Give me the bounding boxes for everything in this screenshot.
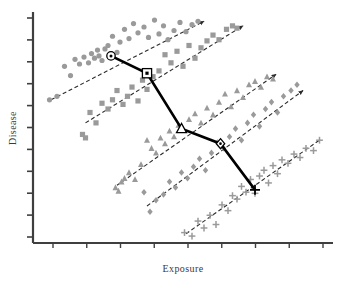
data-point-diamond <box>288 87 293 94</box>
data-point-square <box>198 45 203 50</box>
data-point-diamond <box>257 123 262 130</box>
data-point-diamond <box>233 125 238 132</box>
data-point-plus <box>195 218 202 225</box>
data-point-triangle <box>222 91 228 97</box>
data-point-circle <box>110 34 115 39</box>
data-point-square <box>162 52 167 57</box>
data-point-plus <box>225 207 232 214</box>
data-point-square <box>204 38 209 43</box>
data-point-triangle <box>144 137 150 143</box>
data-point-triangle <box>252 78 258 84</box>
data-point-circle <box>126 36 131 41</box>
data-point-triangle <box>171 134 177 140</box>
data-point-diamond <box>167 178 172 185</box>
data-point-square <box>192 56 197 61</box>
data-point-diamond <box>173 184 178 191</box>
x-axis-title: Exposure <box>163 263 204 274</box>
data-point-diamond <box>141 189 146 196</box>
data-point-diamond <box>251 111 256 118</box>
data-point-square <box>135 98 140 103</box>
data-point-plus <box>279 156 286 163</box>
scatter-plot-figure: Exposure Disease <box>0 0 341 286</box>
data-point-circle <box>131 21 136 26</box>
data-point-diamond <box>245 120 250 127</box>
centroid-marker-circle-outline <box>107 52 115 60</box>
data-point-triangle <box>246 82 252 88</box>
data-point-triangle <box>240 94 246 100</box>
data-point-triangle <box>126 169 132 175</box>
data-point-square <box>83 135 88 140</box>
data-point-square <box>105 106 110 111</box>
data-point-triangle <box>138 161 144 167</box>
data-point-circle <box>141 24 146 29</box>
data-point-circle <box>152 17 157 22</box>
data-point-square <box>174 49 179 54</box>
data-point-triangle <box>192 110 198 116</box>
data-point-plus <box>234 196 241 203</box>
data-point-plus <box>297 154 304 161</box>
data-point-triangle <box>204 105 210 111</box>
data-point-plus <box>261 167 268 174</box>
data-point-square <box>93 120 98 125</box>
data-point-plus <box>213 221 220 228</box>
data-point-circle <box>171 28 176 33</box>
data-point-square <box>99 101 104 106</box>
data-point-triangle <box>162 140 168 146</box>
data-point-square <box>216 37 221 42</box>
data-point-diamond <box>227 133 232 140</box>
data-point-circle <box>99 58 104 63</box>
data-point-plus <box>189 233 196 240</box>
data-point-diamond <box>269 99 274 106</box>
data-point-circle <box>62 64 67 69</box>
data-point-circle <box>165 37 170 42</box>
data-point-diamond <box>147 209 152 216</box>
data-point-triangle <box>270 76 276 82</box>
data-point-circle <box>81 54 86 59</box>
data-point-plus <box>201 225 208 232</box>
data-point-triangle <box>149 145 155 151</box>
data-point-triangle <box>167 128 173 134</box>
data-point-circle <box>117 39 122 44</box>
data-point-circle <box>195 19 200 24</box>
group-trend-line-3 <box>117 74 276 185</box>
data-point-diamond <box>191 163 196 170</box>
data-point-diamond <box>197 155 202 162</box>
data-point-square <box>230 23 235 28</box>
centroid-marker-square-outline <box>142 69 151 78</box>
data-point-triangle <box>158 135 164 141</box>
data-point-triangle <box>186 116 192 122</box>
data-point-diamond <box>185 175 190 182</box>
data-point-diamond <box>294 81 299 88</box>
data-point-square <box>110 97 115 102</box>
data-point-circle <box>189 22 194 27</box>
data-point-square <box>168 60 173 65</box>
data-point-square <box>144 87 149 92</box>
data-point-plus <box>207 212 214 219</box>
data-point-circle <box>92 56 97 61</box>
data-point-square <box>180 64 185 69</box>
data-point-triangle <box>198 120 204 126</box>
data-point-square <box>87 110 92 115</box>
data-point-diamond <box>179 169 184 176</box>
data-point-circle <box>77 61 82 66</box>
data-point-circle <box>146 35 151 40</box>
data-point-circle <box>105 43 110 48</box>
data-point-circle <box>135 30 140 35</box>
data-point-plus <box>229 192 236 199</box>
data-point-square <box>125 94 130 99</box>
data-point-circle <box>86 60 91 65</box>
data-point-plus <box>181 229 188 236</box>
data-point-square <box>210 33 215 38</box>
data-point-triangle <box>122 175 128 181</box>
data-point-square <box>114 88 119 93</box>
data-point-circle <box>96 53 101 58</box>
data-point-circle <box>54 94 59 99</box>
overall-trend-line <box>111 56 255 190</box>
data-point-triangle <box>234 87 240 93</box>
data-point-square <box>186 43 191 48</box>
y-axis-title: Disease <box>7 111 18 145</box>
data-point-triangle <box>216 99 222 105</box>
plot-canvas: Exposure Disease <box>0 0 341 286</box>
overall-trend-polyline <box>111 56 255 190</box>
data-point-square <box>224 27 229 32</box>
